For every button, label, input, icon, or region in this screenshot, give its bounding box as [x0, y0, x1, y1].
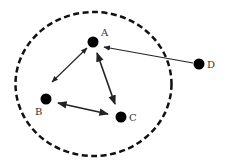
- node-d-dot: [194, 59, 205, 70]
- node-d: D: [194, 59, 216, 71]
- node-c-label: C: [129, 112, 137, 123]
- network-diagram: ABCD: [0, 0, 228, 163]
- node-b: B: [35, 94, 52, 118]
- node-a: A: [88, 27, 110, 48]
- node-c-dot: [116, 112, 127, 123]
- node-d-label: D: [207, 59, 215, 70]
- edge-a-b-arrow: [52, 48, 87, 82]
- node-b-dot: [41, 94, 52, 105]
- node-b-label: B: [35, 106, 42, 117]
- edge-a-c-arrow: [97, 53, 115, 104]
- dashed-boundary-ellipse: [16, 12, 172, 156]
- node-a-label: A: [100, 27, 109, 38]
- edge-b-c-arrow: [58, 103, 108, 114]
- nodes-group: ABCD: [35, 27, 215, 123]
- edge-d-a-arrow: [104, 47, 193, 63]
- node-c: C: [116, 112, 138, 124]
- node-a-dot: [88, 37, 99, 48]
